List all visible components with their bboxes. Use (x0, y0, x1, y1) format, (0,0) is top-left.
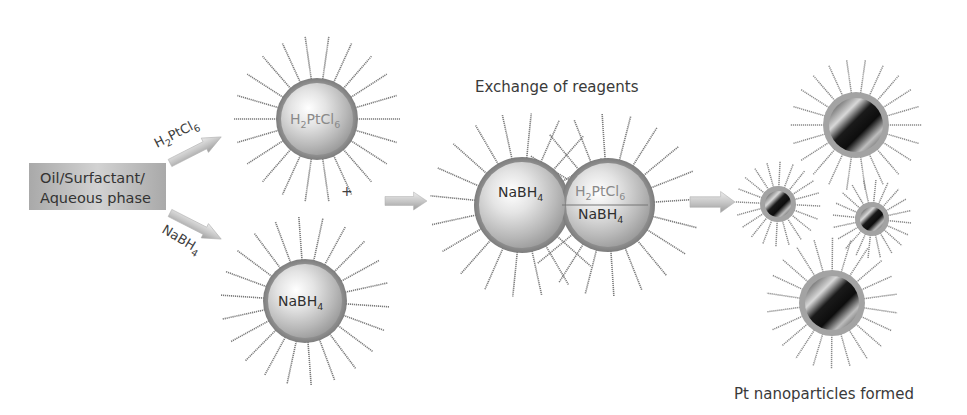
pt-nanoparticle-large-top (790, 60, 922, 191)
pt-nanoparticle-small-right (832, 179, 912, 259)
source-phase-box: Oil/Surfactant/ Aqueous phase (29, 163, 166, 210)
arrow-add-nabh4: NaBH4 (158, 206, 225, 259)
middle-arrow-icon (385, 192, 427, 210)
merged-micelle-exchange: NaBH4 H2PtCl6 NaBH4 (431, 113, 700, 297)
micelle-top-marker: + (341, 183, 353, 199)
pt-nanoparticle-large-bottom (767, 237, 898, 369)
micelle-h2ptcl6: H2PtCl6 + (234, 37, 400, 201)
source-box-line1: Oil/Surfactant/ (40, 170, 145, 186)
result-caption: Pt nanoparticles formed (734, 385, 914, 403)
arrow-to-exchange (385, 192, 427, 210)
micelle-nabh4: NaBH4 (220, 216, 390, 386)
microemulsion-synthesis-diagram: Oil/Surfactant/ Aqueous phase H2PtCl6 Na… (0, 0, 967, 415)
exchange-title: Exchange of reagents (475, 78, 639, 96)
arrow-to-nanoparticles (690, 192, 735, 213)
right-arrow-icon (690, 192, 735, 213)
pt-nanoparticle-small-left (735, 161, 821, 247)
arrow-add-h2ptcl6: H2PtCl6 (152, 116, 225, 170)
source-box-line2: Aqueous phase (40, 190, 151, 206)
pt-nanoparticles-group (735, 60, 922, 369)
